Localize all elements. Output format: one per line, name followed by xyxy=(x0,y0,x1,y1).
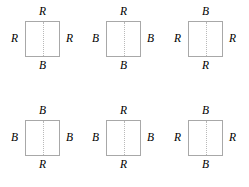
figure-3-label-bottom: R xyxy=(188,60,223,72)
figure-1: R R R B xyxy=(0,1,83,94)
figure-2-dotted-midline xyxy=(124,22,125,56)
figure-4-square-wrap xyxy=(25,120,60,156)
figure-4: B B B R xyxy=(0,100,83,187)
figure-1-square-wrap xyxy=(25,21,60,57)
figure-2-label-top: R xyxy=(106,6,141,18)
figure-6-label-top: B xyxy=(188,105,223,117)
figure-4-label-top: B xyxy=(25,105,60,117)
figure-1-label-right: R xyxy=(63,33,76,45)
figure-3-label-top: B xyxy=(188,6,223,18)
figure-3-label-left: R xyxy=(171,33,184,45)
figure-5-square-wrap xyxy=(106,120,141,156)
figure-1-label-left: R xyxy=(8,33,21,45)
figure-1-label-top: R xyxy=(25,6,60,18)
figure-4-label-bottom: R xyxy=(25,159,60,171)
figure-6-label-bottom: B xyxy=(188,159,223,171)
figure-5: R B B R xyxy=(81,100,164,187)
figure-2-square-wrap xyxy=(106,21,141,57)
figure-4-label-right: B xyxy=(63,132,76,144)
figure-6-label-left: R xyxy=(171,132,184,144)
figure-3-dotted-midline xyxy=(206,22,207,56)
figure-1-dotted-midline xyxy=(43,22,44,56)
figure-2-label-left: B xyxy=(89,33,102,45)
figure-6: B R R B xyxy=(163,100,246,187)
figure-6-dotted-midline xyxy=(206,121,207,155)
figure-5-label-right: B xyxy=(144,132,157,144)
figure-4-dotted-midline xyxy=(43,121,44,155)
figure-2-label-right: B xyxy=(144,33,157,45)
figure-4-label-left: B xyxy=(8,132,21,144)
figure-grid: R R R B R B B B B R R R B B B R xyxy=(0,0,249,187)
figure-6-label-right: R xyxy=(226,132,239,144)
figure-1-label-bottom: B xyxy=(25,60,60,72)
figure-5-label-left: B xyxy=(89,132,102,144)
figure-5-label-top: R xyxy=(106,105,141,117)
figure-3-square-wrap xyxy=(188,21,223,57)
figure-6-square-wrap xyxy=(188,120,223,156)
figure-5-dotted-midline xyxy=(124,121,125,155)
figure-3: B R R R xyxy=(163,1,246,94)
figure-5-label-bottom: R xyxy=(106,159,141,171)
figure-3-label-right: R xyxy=(226,33,239,45)
figure-2-label-bottom: B xyxy=(106,60,141,72)
figure-2: R B B B xyxy=(81,1,164,94)
